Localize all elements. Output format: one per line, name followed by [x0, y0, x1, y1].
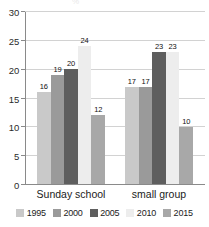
legend-label: 2015 — [174, 208, 193, 218]
y-axis-tick — [21, 69, 25, 70]
bar-slot: 23 — [166, 12, 180, 184]
legend-label: 2000 — [63, 208, 82, 218]
y-axis-label: 10 — [9, 122, 19, 133]
legend-label: 2005 — [100, 208, 119, 218]
y-axis-tick — [21, 155, 25, 156]
bar-group: 1619202412 — [37, 12, 105, 184]
legend-item[interactable]: 2010 — [126, 208, 156, 218]
bar[interactable] — [91, 115, 105, 184]
bar[interactable] — [37, 92, 51, 184]
bar-slot: 17 — [125, 12, 139, 184]
bar-slot: 19 — [51, 12, 65, 184]
bar-slot: 12 — [91, 12, 105, 184]
bar-slot: 24 — [78, 12, 92, 184]
legend-swatch-icon — [126, 209, 134, 217]
bar-group-bars: 1619202412 — [37, 12, 105, 184]
bar-value-label: 17 — [141, 77, 149, 86]
y-axis-label: 5 — [14, 151, 19, 162]
legend-item[interactable]: 1995 — [16, 208, 46, 218]
bar[interactable] — [78, 46, 92, 184]
bar-value-label: 23 — [169, 42, 177, 51]
y-axis-tick — [21, 40, 25, 41]
bar-slot: 20 — [64, 12, 78, 184]
bar[interactable] — [125, 87, 139, 184]
legend-label: 2010 — [137, 208, 156, 218]
legend: 19952000200520102015 — [0, 205, 209, 221]
bar-value-label: 17 — [128, 77, 136, 86]
category-label: small group — [132, 188, 186, 200]
y-axis-tick — [21, 126, 25, 127]
bar-value-label: 10 — [182, 117, 190, 126]
bar-value-label: 12 — [94, 105, 102, 114]
legend-swatch-icon — [163, 209, 171, 217]
y-axis-label: 15 — [9, 93, 19, 104]
bar-slot: 17 — [139, 12, 153, 184]
bar-slot: 23 — [152, 12, 166, 184]
y-axis-label: 25 — [9, 35, 19, 46]
bar[interactable] — [139, 87, 153, 184]
y-axis-label: 20 — [9, 64, 19, 75]
y-axis-tick — [21, 11, 25, 12]
legend-item[interactable]: 2015 — [163, 208, 193, 218]
y-axis-tick — [21, 98, 25, 99]
bar-group-bars: 1717232310 — [125, 12, 193, 184]
y-axis-tick — [21, 184, 25, 185]
bar-value-label: 24 — [81, 36, 89, 45]
plot-area: 051015202530 16192024121717232310 — [25, 12, 205, 185]
bar-value-label: 19 — [53, 65, 61, 74]
bar[interactable] — [179, 127, 193, 184]
legend-swatch-icon — [90, 209, 98, 217]
bar[interactable] — [152, 52, 166, 184]
bar-value-label: 23 — [155, 42, 163, 51]
category-label: Sunday school — [37, 188, 106, 200]
bar-slot: 16 — [37, 12, 51, 184]
bar-group: 1717232310 — [125, 12, 193, 184]
cropped-title-remnant: % — [72, 0, 106, 4]
y-axis-line — [25, 12, 26, 185]
bar-value-label: 20 — [67, 59, 75, 68]
legend-item[interactable]: 2000 — [53, 208, 83, 218]
bar[interactable] — [64, 69, 78, 184]
bar[interactable] — [51, 75, 65, 184]
x-axis-line — [25, 184, 205, 185]
bar-value-label: 16 — [40, 82, 48, 91]
bar[interactable] — [166, 52, 180, 184]
bar-chart: % 051015202530 16192024121717232310 Sund… — [0, 0, 209, 227]
legend-swatch-icon — [16, 209, 24, 217]
y-axis-label: 0 — [14, 180, 19, 191]
legend-label: 1995 — [27, 208, 46, 218]
legend-swatch-icon — [53, 209, 61, 217]
legend-item[interactable]: 2005 — [90, 208, 120, 218]
bar-slot: 10 — [179, 12, 193, 184]
y-axis-label: 30 — [9, 7, 19, 18]
